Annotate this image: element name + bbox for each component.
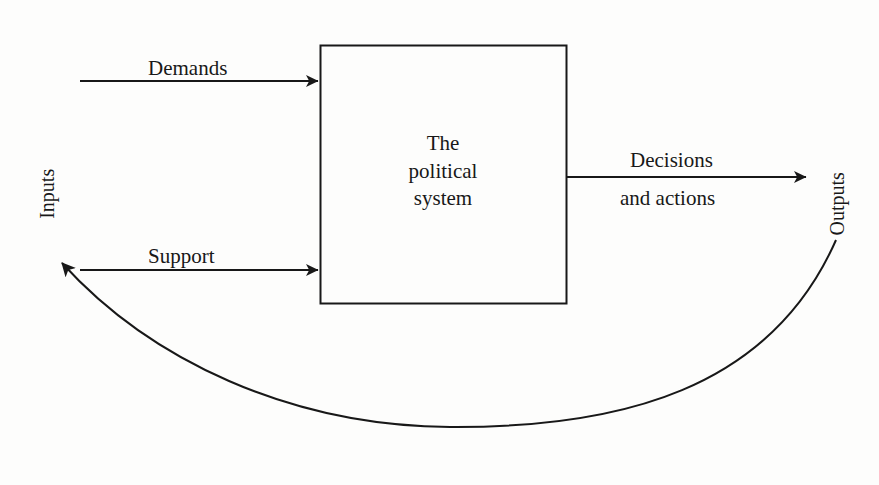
and-actions-label: and actions xyxy=(620,186,715,211)
political-system-label-line-1: The xyxy=(336,130,550,158)
decisions-label: Decisions xyxy=(630,148,713,173)
inputs-axis-label: Inputs xyxy=(36,144,60,244)
political-system-diagram: The political system Demands Support Dec… xyxy=(0,0,879,485)
political-system-label: The political system xyxy=(336,130,550,213)
demands-label: Demands xyxy=(148,56,227,81)
diagram-canvas xyxy=(0,0,879,485)
political-system-label-line-3: system xyxy=(336,185,550,213)
political-system-label-line-2: political xyxy=(336,158,550,186)
support-label: Support xyxy=(148,244,215,269)
outputs-axis-label: Outputs xyxy=(826,151,850,256)
